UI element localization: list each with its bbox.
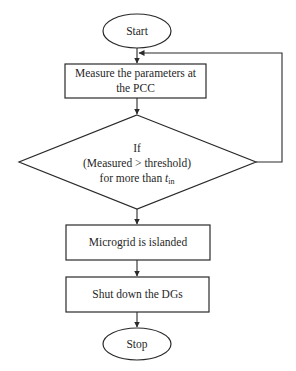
start-label: Start: [103, 24, 171, 39]
measure-label: Measure the parameters at the PCC: [65, 66, 206, 96]
measure-label-line1: Measure the parameters at: [65, 66, 206, 81]
decision-label-prefix: for more than: [100, 172, 165, 184]
decision-label-line1: If: [60, 141, 214, 156]
shutdown-label: Shut down the DGs: [66, 287, 209, 302]
decision-label: If (Measured > threshold) for more than …: [60, 141, 214, 189]
decision-label-line2: (Measured > threshold): [60, 156, 214, 171]
decision-label-line3: for more than tin: [60, 171, 214, 189]
measure-label-line2: the PCC: [65, 81, 206, 96]
decision-time-subscript: in: [168, 177, 174, 186]
islanded-label: Microgrid is islanded: [66, 235, 210, 250]
stop-label: Stop: [103, 337, 171, 352]
